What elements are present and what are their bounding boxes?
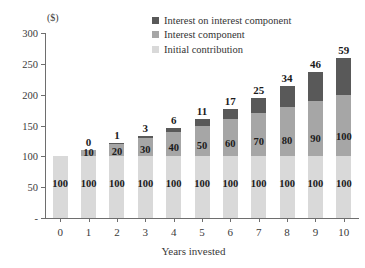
x-axis-title: Years invested bbox=[0, 245, 365, 257]
bar-segment[interactable] bbox=[109, 143, 124, 144]
bar-top-label: 0 bbox=[86, 137, 92, 148]
bar-top-label: 25 bbox=[253, 85, 264, 96]
bar-segment-label: 30 bbox=[140, 144, 151, 155]
bar-top-label: 17 bbox=[225, 96, 236, 107]
bar-group[interactable]: 1009046 bbox=[308, 33, 323, 218]
x-axis-title-text: Years invested bbox=[162, 245, 226, 257]
bar-segment-label: 100 bbox=[222, 178, 238, 189]
x-tick-label: 1 bbox=[86, 226, 92, 238]
bar-stack: 100201 bbox=[109, 33, 124, 218]
legend-swatch-icon bbox=[152, 17, 159, 24]
bar-segment-label: 80 bbox=[282, 135, 293, 146]
bar-segment[interactable] bbox=[308, 72, 323, 100]
bar-group[interactable]: 1006017 bbox=[223, 33, 238, 218]
x-tick-mark bbox=[89, 218, 90, 222]
y-tick-label: 300 bbox=[22, 28, 38, 39]
bar-segment-label: 60 bbox=[225, 138, 236, 149]
x-tick-mark bbox=[202, 218, 203, 222]
bar-stack: 100303 bbox=[138, 33, 153, 218]
bar-segment-label: 10 bbox=[83, 147, 94, 158]
x-tick-label: 2 bbox=[114, 226, 120, 238]
bar-segment-label: 100 bbox=[194, 178, 210, 189]
bar-stack: 1005011 bbox=[195, 33, 210, 218]
y-tick-label: 250 bbox=[22, 58, 38, 69]
bar-segment-label: 40 bbox=[168, 142, 179, 153]
legend-item[interactable]: Interest on interest component bbox=[152, 13, 362, 28]
x-tick-label: 10 bbox=[338, 226, 349, 238]
bar-group[interactable]: 100406 bbox=[166, 33, 181, 218]
x-tick-mark bbox=[287, 218, 288, 222]
x-tick-mark bbox=[174, 218, 175, 222]
x-tick-mark bbox=[344, 218, 345, 222]
bar-group[interactable]: 10010059 bbox=[336, 33, 351, 218]
bar-group[interactable]: 100 bbox=[53, 33, 68, 218]
bar-segment[interactable] bbox=[251, 98, 266, 113]
bar-segment-label: 100 bbox=[81, 178, 97, 189]
bar-stack: 1008034 bbox=[280, 33, 295, 218]
bar-segment[interactable] bbox=[138, 136, 153, 138]
x-tick-label: 6 bbox=[228, 226, 234, 238]
bar-segment[interactable] bbox=[336, 95, 351, 157]
bar-segment[interactable] bbox=[308, 101, 323, 157]
bar-stack: 100 bbox=[53, 33, 68, 218]
bar-segment-label: 50 bbox=[197, 140, 208, 151]
bar-stack: 1007025 bbox=[251, 33, 266, 218]
bar-top-label: 3 bbox=[143, 123, 149, 134]
y-tick-label: 50 bbox=[28, 182, 39, 193]
bar-segment-label: 90 bbox=[310, 133, 321, 144]
bar-group[interactable]: 100100 bbox=[81, 33, 96, 218]
bar-stack: 1006017 bbox=[223, 33, 238, 218]
x-tick-mark bbox=[145, 218, 146, 222]
bar-top-label: 6 bbox=[171, 115, 177, 126]
x-tick-label: 7 bbox=[256, 226, 262, 238]
y-tick-label: 100 bbox=[22, 151, 38, 162]
plot-area: 1001001001002011003031004061005011100601… bbox=[46, 33, 358, 218]
x-tick-mark bbox=[60, 218, 61, 222]
x-tick-label: 0 bbox=[57, 226, 63, 238]
y-axis-unit-label: ($) bbox=[47, 12, 59, 23]
bar-segment[interactable] bbox=[336, 58, 351, 94]
x-tick-mark bbox=[117, 218, 118, 222]
bar-top-label: 11 bbox=[197, 106, 207, 117]
legend-item-label: Interest on interest component bbox=[164, 15, 291, 26]
bar-segment-label: 100 bbox=[251, 178, 267, 189]
bar-segment[interactable] bbox=[280, 86, 295, 107]
y-tick-label: 150 bbox=[22, 120, 38, 131]
x-tick-label: 8 bbox=[284, 226, 290, 238]
bar-segment-label: 100 bbox=[279, 178, 295, 189]
y-tick-label: - bbox=[35, 213, 39, 224]
y-tick-label: 200 bbox=[22, 89, 38, 100]
bar-segment-label: 70 bbox=[253, 136, 264, 147]
bar-group[interactable]: 1007025 bbox=[251, 33, 266, 218]
bar-top-label: 34 bbox=[282, 73, 293, 84]
bar-segment-label: 100 bbox=[166, 178, 182, 189]
bar-stack: 100100 bbox=[81, 33, 96, 218]
x-tick-label: 4 bbox=[171, 226, 177, 238]
bar-segment-label: 100 bbox=[308, 178, 324, 189]
bar-group[interactable]: 100201 bbox=[109, 33, 124, 218]
x-tick-label: 9 bbox=[313, 226, 319, 238]
bar-group[interactable]: 100303 bbox=[138, 33, 153, 218]
x-tick-mark bbox=[230, 218, 231, 222]
x-tick-mark bbox=[259, 218, 260, 222]
bar-segment[interactable] bbox=[251, 113, 266, 156]
bar-segment-label: 100 bbox=[109, 178, 125, 189]
y-tick-mark bbox=[41, 218, 46, 219]
bar-segment[interactable] bbox=[280, 107, 295, 156]
bar-segment[interactable] bbox=[223, 109, 238, 119]
bar-segment[interactable] bbox=[195, 119, 210, 126]
x-tick-label: 3 bbox=[143, 226, 149, 238]
x-tick-label: 5 bbox=[199, 226, 205, 238]
bar-top-label: 1 bbox=[114, 130, 120, 141]
bar-segment-label: 100 bbox=[52, 178, 68, 189]
bar-segment-label: 100 bbox=[336, 178, 352, 189]
bar-segment-label: 20 bbox=[112, 146, 123, 157]
bar-group[interactable]: 1005011 bbox=[195, 33, 210, 218]
bar-group[interactable]: 1008034 bbox=[280, 33, 295, 218]
x-tick-mark bbox=[315, 218, 316, 222]
bar-segment[interactable] bbox=[166, 128, 181, 132]
bar-stack: 1009046 bbox=[308, 33, 323, 218]
bar-stack: 10010059 bbox=[336, 33, 351, 218]
bar-stack: 100406 bbox=[166, 33, 181, 218]
bar-segment-label: 100 bbox=[336, 131, 352, 142]
